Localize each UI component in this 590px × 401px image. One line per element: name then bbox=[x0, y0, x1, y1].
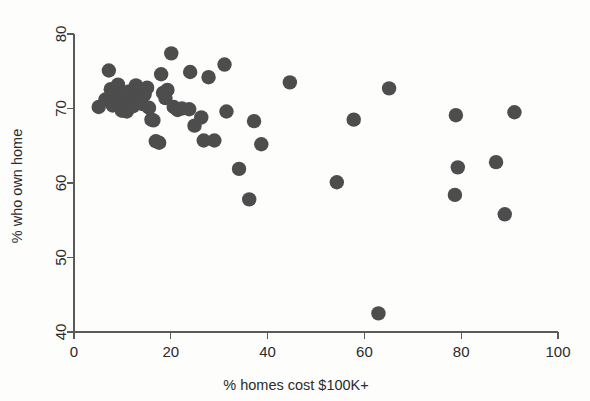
data-point bbox=[160, 83, 174, 97]
x-tick-label: 60 bbox=[356, 343, 373, 360]
data-point bbox=[152, 136, 166, 150]
data-point bbox=[247, 114, 261, 128]
y-tick-label: 70 bbox=[52, 100, 69, 117]
data-point bbox=[448, 188, 462, 202]
data-point bbox=[507, 105, 521, 119]
x-axis: 020406080100 bbox=[70, 332, 571, 360]
x-tick-label: 40 bbox=[259, 343, 276, 360]
y-tick-label: 40 bbox=[52, 324, 69, 341]
x-axis-title: % homes cost $100K+ bbox=[223, 377, 369, 393]
data-point bbox=[217, 57, 231, 71]
data-point bbox=[489, 155, 503, 169]
data-point bbox=[232, 162, 246, 176]
data-point bbox=[330, 175, 344, 189]
data-point bbox=[183, 65, 197, 79]
x-tick-label: 20 bbox=[162, 343, 179, 360]
data-point bbox=[347, 112, 361, 126]
data-point bbox=[146, 113, 160, 127]
data-point bbox=[164, 46, 178, 60]
data-point bbox=[207, 133, 221, 147]
data-point bbox=[382, 81, 396, 95]
data-point bbox=[182, 102, 196, 116]
data-point bbox=[451, 160, 465, 174]
scatter-plot-figure: 4050607080 020406080100 % homes cost $10… bbox=[0, 0, 590, 401]
data-point bbox=[219, 104, 233, 118]
y-tick-label: 60 bbox=[52, 175, 69, 192]
x-tick-label: 0 bbox=[70, 343, 78, 360]
y-tick-label: 50 bbox=[52, 249, 69, 266]
data-point bbox=[498, 207, 512, 221]
y-tick-label: 80 bbox=[52, 26, 69, 43]
data-point bbox=[102, 63, 116, 77]
data-point bbox=[242, 192, 256, 206]
data-point bbox=[194, 110, 208, 124]
y-axis-title: % who own home bbox=[9, 129, 25, 243]
data-point bbox=[371, 306, 385, 320]
data-points-layer bbox=[91, 46, 521, 320]
data-point bbox=[154, 67, 168, 81]
data-point bbox=[140, 80, 154, 94]
x-tick-label: 80 bbox=[453, 343, 470, 360]
data-point bbox=[449, 108, 463, 122]
data-point bbox=[142, 101, 156, 115]
plot-canvas: 4050607080 020406080100 % homes cost $10… bbox=[0, 0, 590, 401]
data-point bbox=[283, 75, 297, 89]
x-tick-label: 100 bbox=[545, 343, 570, 360]
data-point bbox=[201, 70, 215, 84]
y-axis: 4050607080 bbox=[52, 26, 75, 341]
data-point bbox=[254, 137, 268, 151]
